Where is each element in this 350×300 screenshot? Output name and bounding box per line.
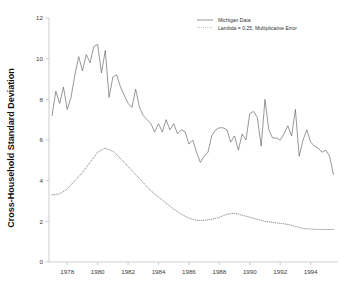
y-tick-label: 8 <box>40 96 44 103</box>
x-tick-label: 1988 <box>212 268 226 275</box>
y-axis: 024681012 <box>36 14 49 265</box>
legend-label-1: Lambda = 0.25, Multiplicative Error <box>218 25 297 31</box>
y-axis-title: Cross-Household Standard Deviation <box>6 68 16 228</box>
x-tick-label: 1986 <box>182 268 196 275</box>
y-tick-label: 4 <box>40 177 44 184</box>
y-tick-label: 12 <box>36 14 43 21</box>
x-tick-label: 1994 <box>304 268 318 275</box>
x-tick-label: 1982 <box>121 268 135 275</box>
series-line-0 <box>52 44 333 174</box>
x-axis: 197819801982198419861988199019921994 <box>49 262 338 275</box>
x-tick-label: 1978 <box>60 268 74 275</box>
chart-legend: Michigan DataLambda = 0.25, Multiplicati… <box>197 17 297 31</box>
series-line-1 <box>52 148 333 229</box>
x-tick-label: 1992 <box>273 268 287 275</box>
x-tick-label: 1990 <box>243 268 257 275</box>
legend-label-0: Michigan Data <box>218 17 251 23</box>
x-tick-label: 1980 <box>91 268 105 275</box>
line-chart: 024681012 197819801982198419861988199019… <box>0 0 350 300</box>
y-tick-label: 6 <box>40 136 44 143</box>
y-tick-label: 2 <box>40 218 44 225</box>
chart-container: 024681012 197819801982198419861988199019… <box>0 0 350 300</box>
x-tick-label: 1984 <box>152 268 166 275</box>
y-tick-label: 10 <box>36 55 43 62</box>
series-layer <box>52 44 333 229</box>
y-tick-label: 0 <box>40 258 44 265</box>
